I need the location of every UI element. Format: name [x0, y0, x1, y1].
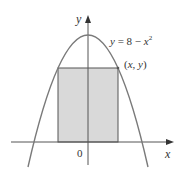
corner-point [117, 67, 120, 70]
parabola-rectangle-diagram: y x 0 y = 8 − x2 (x, y) [0, 0, 182, 172]
y-axis-arrow-icon [85, 15, 91, 23]
x-axis-label: x [164, 147, 171, 161]
origin-label: 0 [77, 147, 83, 159]
equation-label: y = 8 − x2 [109, 34, 153, 47]
point-label: (x, y) [124, 58, 147, 71]
x-axis-arrow-icon [166, 139, 174, 145]
y-axis-label: y [75, 12, 82, 26]
